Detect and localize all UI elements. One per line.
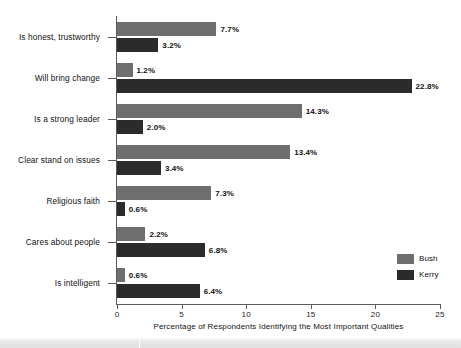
category-label: Clear stand on issues <box>18 155 100 165</box>
y-axis-tick <box>108 78 117 79</box>
legend-item: Bush <box>397 252 439 265</box>
bar-kerry <box>117 243 205 257</box>
bar-bush <box>117 104 302 118</box>
x-axis-tick-label: 10 <box>242 310 251 319</box>
y-axis-tick <box>108 242 117 243</box>
chart-page: 0510152025 Is honest, trustworthyWill br… <box>0 0 461 348</box>
bar-chart-plot-area: 0510152025 Is honest, trustworthyWill br… <box>0 0 461 348</box>
bar-value-label: 2.2% <box>149 230 168 239</box>
category-label: Religious faith <box>46 196 100 206</box>
bar-value-label: 13.4% <box>294 148 317 157</box>
legend-swatch <box>397 254 414 264</box>
scan-artifact-seam <box>139 337 140 348</box>
bar-bush <box>117 22 216 36</box>
x-axis-tick <box>182 304 183 309</box>
bar-kerry <box>117 284 200 298</box>
y-axis-tick <box>108 37 117 38</box>
bar-value-label: 1.2% <box>137 66 156 75</box>
bar-bush <box>117 63 133 77</box>
bar-kerry <box>117 38 158 52</box>
bar-value-label: 22.8% <box>416 82 439 91</box>
legend-swatch <box>397 270 414 280</box>
y-axis-tick <box>108 283 117 284</box>
bar-value-label: 0.6% <box>129 271 148 280</box>
x-axis-tick <box>311 304 312 309</box>
chart-legend: BushKerry <box>397 252 439 284</box>
x-axis-tick <box>440 304 441 309</box>
bar-value-label: 0.6% <box>129 205 148 214</box>
bar-bush <box>117 145 290 159</box>
x-axis-tick <box>117 304 118 309</box>
x-axis-title: Percentage of Respondents Identifying th… <box>116 322 441 331</box>
bar-value-label: 3.2% <box>162 41 181 50</box>
bar-value-label: 2.0% <box>147 123 166 132</box>
bar-bush <box>117 268 125 282</box>
category-label: Is intelligent <box>55 278 100 288</box>
bar-kerry <box>117 161 161 175</box>
bar-value-label: 6.8% <box>209 246 228 255</box>
x-axis-tick <box>375 304 376 309</box>
x-axis-tick-label: 15 <box>306 310 315 319</box>
bar-bush <box>117 227 145 241</box>
x-axis-tick-label: 25 <box>435 310 444 319</box>
category-label: Cares about people <box>26 237 100 247</box>
y-axis-tick <box>108 160 117 161</box>
bar-kerry <box>117 202 125 216</box>
legend-item: Kerry <box>397 268 439 281</box>
category-label: Will bring change <box>35 73 100 83</box>
bar-value-label: 7.3% <box>215 189 234 198</box>
x-axis-tick-label: 5 <box>179 310 184 319</box>
x-axis-tick-label: 0 <box>115 310 120 319</box>
bar-value-label: 14.3% <box>306 107 329 116</box>
bar-bush <box>117 186 211 200</box>
bar-kerry <box>117 120 143 134</box>
bar-value-label: 6.4% <box>204 287 223 296</box>
bar-value-label: 7.7% <box>220 25 239 34</box>
x-axis-tick <box>246 304 247 309</box>
scan-artifact-band <box>0 337 461 348</box>
bar-value-label: 3.4% <box>165 164 184 173</box>
legend-label: Kerry <box>419 270 439 279</box>
category-label: Is honest, trustworthy <box>19 32 100 42</box>
bar-kerry <box>117 79 412 93</box>
legend-label: Bush <box>419 254 438 263</box>
x-axis-line <box>116 304 441 305</box>
y-axis-tick <box>108 201 117 202</box>
x-axis-tick-label: 20 <box>371 310 380 319</box>
category-label: Is a strong leader <box>34 114 100 124</box>
y-axis-tick <box>108 119 117 120</box>
